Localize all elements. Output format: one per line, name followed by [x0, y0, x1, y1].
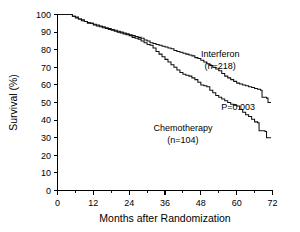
- y-axis-tick-label: 50: [41, 98, 51, 108]
- y-axis-tick-label: 60: [41, 80, 51, 90]
- y-axis-tick-label: 40: [41, 115, 51, 125]
- kaplan-meier-plot: 01020304050607080901000122436486072Month…: [0, 0, 300, 232]
- y-axis-tick-label: 90: [41, 27, 51, 37]
- y-axis-tick-label: 80: [41, 45, 51, 55]
- y-axis-title: Survival (%): [7, 74, 19, 131]
- x-axis-tick-label: 60: [232, 198, 242, 208]
- x-axis-tick-label: 0: [55, 198, 60, 208]
- y-axis-tick-label: 100: [36, 10, 51, 20]
- km-curve-chemotherapy: [58, 15, 272, 138]
- y-axis-tick-label: 0: [46, 186, 51, 196]
- y-axis-tick-label: 30: [41, 133, 51, 143]
- x-axis-tick-label: 72: [267, 198, 277, 208]
- pvalue-annotation: P=0.003: [221, 102, 255, 112]
- series-n-label-chemotherapy: (n=104): [167, 135, 198, 145]
- y-axis-tick-label: 20: [41, 151, 51, 161]
- x-axis-tick-label: 48: [196, 198, 206, 208]
- x-axis-tick-label: 36: [160, 198, 170, 208]
- x-axis-tick-label: 12: [88, 198, 98, 208]
- series-n-label-interferon: (n=218): [205, 61, 236, 71]
- y-axis-tick-label: 70: [41, 63, 51, 73]
- y-axis-tick-label: 10: [41, 168, 51, 178]
- survival-curve-figure: 01020304050607080901000122436486072Month…: [0, 0, 300, 232]
- x-axis-tick-label: 24: [124, 198, 134, 208]
- series-label-interferon: Interferon: [201, 49, 240, 59]
- series-label-chemotherapy: Chemotherapy: [153, 123, 213, 133]
- x-axis-title: Months after Randomization: [99, 212, 230, 224]
